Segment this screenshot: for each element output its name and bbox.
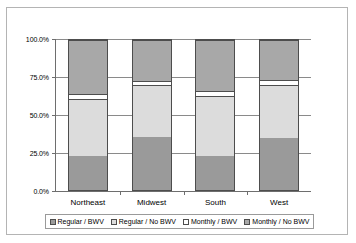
legend-item[interactable]: Monthly / BWV <box>183 218 237 225</box>
bar-segment[interactable] <box>260 85 298 138</box>
chart-frame: 0.0%25.0%50.0%75.0%100.0% NortheastMidwe… <box>6 7 348 235</box>
x-axis-tick <box>247 191 248 195</box>
legend-swatch-icon <box>244 219 250 225</box>
y-axis-label: 100.0% <box>26 36 49 43</box>
bar-segment[interactable] <box>196 156 234 190</box>
legend-swatch-icon <box>183 219 189 225</box>
bar-segment[interactable] <box>196 40 234 91</box>
plot-area: 0.0%25.0%50.0%75.0%100.0% NortheastMidwe… <box>55 39 311 192</box>
legend-item[interactable]: Regular / No BWV <box>111 218 176 225</box>
bar-segment[interactable] <box>133 85 171 137</box>
y-axis-tick <box>52 39 56 40</box>
bar-segment[interactable] <box>133 40 171 81</box>
bar-column[interactable] <box>259 39 299 191</box>
x-axis-tick <box>184 191 185 195</box>
legend-swatch-icon <box>50 219 56 225</box>
y-axis-tick <box>52 153 56 154</box>
y-axis-label: 75.0% <box>30 74 49 81</box>
y-axis-label: 50.0% <box>30 112 49 119</box>
legend-label: Monthly / BWV <box>191 218 237 225</box>
legend-item[interactable]: Monthly / No BWV <box>244 218 309 225</box>
legend-item[interactable]: Regular / BWV <box>50 218 104 225</box>
x-axis-label: West <box>239 198 319 207</box>
bar-column[interactable] <box>132 39 172 191</box>
bar-segment[interactable] <box>260 40 298 80</box>
x-axis-tick <box>120 191 121 195</box>
bar-segment[interactable] <box>196 96 234 156</box>
bar-column[interactable] <box>68 39 108 191</box>
bar-column[interactable] <box>195 39 235 191</box>
legend-label: Regular / No BWV <box>119 218 176 225</box>
y-axis-tick <box>52 115 56 116</box>
chart-legend: Regular / BWVRegular / No BWVMonthly / B… <box>45 214 314 229</box>
bar-segment[interactable] <box>133 137 171 190</box>
y-axis-tick <box>52 191 56 192</box>
legend-swatch-icon <box>111 219 117 225</box>
bar-segment[interactable] <box>69 40 107 94</box>
y-axis-tick <box>52 77 56 78</box>
legend-label: Monthly / No BWV <box>252 218 309 225</box>
bar-segment[interactable] <box>260 138 298 190</box>
legend-label: Regular / BWV <box>58 218 104 225</box>
bar-segment[interactable] <box>69 99 107 156</box>
y-axis-label: 0.0% <box>33 188 49 195</box>
y-axis-label: 25.0% <box>30 150 49 157</box>
bar-segment[interactable] <box>69 156 107 190</box>
